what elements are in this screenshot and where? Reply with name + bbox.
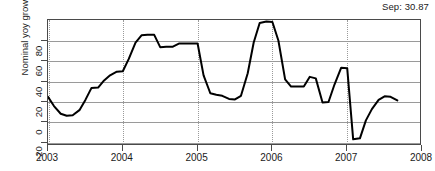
x-tick [47,145,48,151]
x-tick-label: 2004 [102,152,142,163]
x-tick [122,145,123,151]
x-tick [271,145,272,151]
data-series-line [48,20,421,145]
x-tick-label: 2008 [401,152,435,163]
y-tick-label: 80 [34,40,44,62]
y-axis-label: Nominal yoy growth (%) [19,0,31,88]
y-tick-label: 0 [34,121,44,143]
y-tick-label: 20 [34,101,44,123]
x-tick-label: 2003 [27,152,67,163]
y-tick-label: 40 [34,81,44,103]
x-tick-label: 2005 [177,152,217,163]
chart-figure: Sep: 30.87 Nominal yoy growth (%) -20020… [0,0,435,171]
plot-area [47,19,421,145]
x-tick [421,145,422,151]
x-tick [346,145,347,151]
x-tick-label: 2007 [326,152,366,163]
x-tick [197,145,198,151]
chart-annotation: Sep: 30.87 [382,1,429,12]
y-tick-label: 60 [34,60,44,82]
x-tick-label: 2006 [251,152,291,163]
